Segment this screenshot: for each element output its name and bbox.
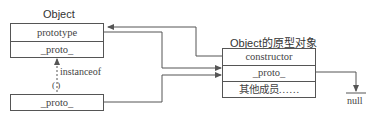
constructor-field: constructor [223, 49, 315, 65]
instance-proto-field: _proto_ [11, 95, 103, 111]
paren-label: ( ) [52, 80, 60, 90]
instanceof-label: instanceof [60, 66, 101, 77]
prototype-proto-field: _proto_ [223, 65, 315, 81]
object-title: Object [43, 8, 75, 20]
null-label: null [347, 95, 363, 106]
instance-proto-to-prototype-object-arrow [86, 75, 221, 102]
instance-box: _proto_ [10, 94, 104, 111]
object-box: prototype _proto_ [10, 23, 104, 58]
prototype-to-prototype-object-arrow [88, 32, 221, 68]
other-members-field: 其他成员…… [223, 81, 315, 98]
object-proto-field: _proto_ [11, 41, 103, 58]
object-prototype-field: prototype [11, 25, 103, 42]
prototype-object-box: constructor _proto_ 其他成员…… [222, 48, 316, 98]
